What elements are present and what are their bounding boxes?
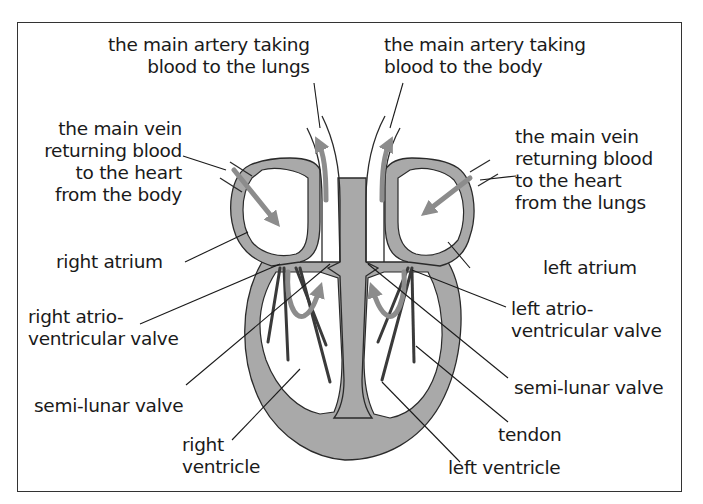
label-left-ventricle: left ventricle (448, 457, 560, 479)
label-right-av-valve: right atrio- ventricular valve (28, 306, 179, 350)
label-left-av-valve: left atrio- ventricular valve (511, 298, 662, 342)
label-semilunar-valve-aortic: semi-lunar valve (514, 377, 663, 399)
label-pulmonary-artery: the main artery taking blood to the lung… (108, 34, 310, 78)
label-right-ventricle: right ventricle (182, 434, 260, 478)
label-aorta: the main artery taking blood to the body (384, 34, 586, 78)
label-semilunar-valve-pulmonary: semi-lunar valve (34, 395, 183, 417)
label-vena-cava: the main vein returning blood to the hea… (22, 118, 182, 206)
label-right-atrium: right atrium (56, 251, 163, 273)
label-left-atrium: left atrium (543, 257, 637, 279)
label-pulmonary-vein: the main vein returning blood to the hea… (515, 126, 653, 214)
label-tendon: tendon (498, 424, 561, 446)
